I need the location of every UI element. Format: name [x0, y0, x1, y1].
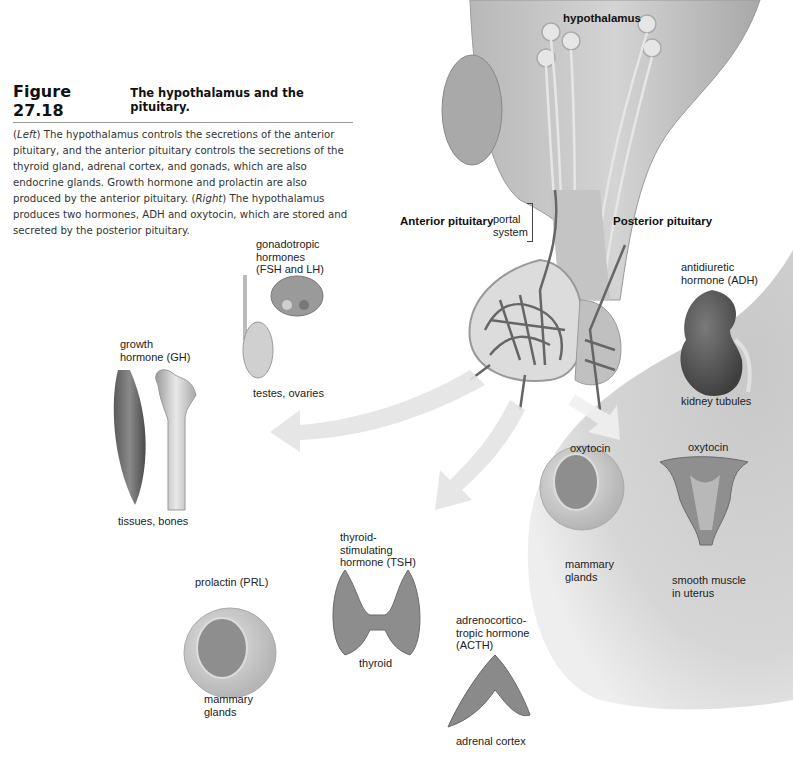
label-adrenal-cortex: adrenal cortex [456, 735, 526, 748]
label-tissues-bones: tissues, bones [118, 515, 188, 528]
label-adh: antidiuretic hormone (ADH) [681, 261, 758, 286]
kidney-shape [680, 290, 742, 396]
label-mammary-glands-prl: mammary glands [204, 693, 253, 718]
label-acth: adrenocortico- tropic hormone (ACTH) [456, 614, 529, 652]
figure-number: Figure 27.18 [13, 82, 120, 120]
label-posterior-pituitary: Posterior pituitary [613, 215, 712, 228]
portal-system-bracket [527, 203, 533, 242]
label-mammary-glands-oxytocin: mammary glands [565, 558, 614, 583]
label-thyroid: thyroid [359, 657, 392, 670]
bone-shape [156, 370, 196, 510]
caption-right-tag: Right [196, 193, 223, 204]
label-portal-system: portal system [493, 213, 528, 238]
thyroid-shape [333, 570, 420, 655]
caption-left-tag: Left [17, 129, 37, 140]
ovary-shape [271, 276, 323, 316]
label-oxytocin-uterus: oxytocin [688, 441, 728, 454]
figure-caption: Figure 27.18 The hypothalamus and the pi… [13, 82, 353, 239]
label-anterior-pituitary: Anterior pituitary [400, 215, 493, 228]
optic-chiasm-shape [442, 55, 502, 165]
label-gonadotropic-hormones: gonadotropic hormones (FSH and LH) [256, 238, 324, 276]
testis-shape [243, 322, 273, 378]
label-hypothalamus: hypothalamus [563, 12, 641, 25]
muscle-shape [114, 370, 146, 505]
label-kidney-tubules: kidney tubules [681, 395, 751, 408]
label-testes-ovaries: testes, ovaries [253, 387, 324, 400]
label-smooth-muscle-uterus: smooth muscle in uterus [672, 574, 746, 599]
label-prolactin: prolactin (PRL) [195, 576, 268, 589]
label-growth-hormone: growth hormone (GH) [120, 338, 190, 363]
figure-caption-body: (Left) The hypothalamus controls the sec… [13, 127, 353, 239]
adrenal-shape [448, 655, 530, 727]
label-oxytocin-mammary: oxytocin [570, 442, 610, 455]
figure-title: The hypothalamus and the pituitary. [130, 86, 353, 114]
figure-header: Figure 27.18 The hypothalamus and the pi… [13, 82, 353, 123]
label-tsh: thyroid- stimulating hormone (TSH) [340, 531, 416, 569]
